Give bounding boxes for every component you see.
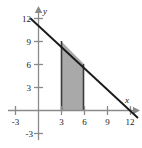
y-axis-label: y: [42, 6, 47, 16]
figure-container: -3 3 6 9 12 12 9 6 3 -3 x y: [0, 0, 142, 148]
x-tick-label-9: 9: [105, 117, 110, 127]
coordinate-plot: -3 3 6 9 12 12 9 6 3 -3 x y: [0, 0, 142, 148]
y-tick-label-6: 6: [27, 60, 32, 70]
shaded-region: [61, 41, 84, 110]
y-axis-arrow-icon: [35, 6, 42, 13]
x-tick-label-6: 6: [82, 117, 87, 127]
x-axis-label: x: [124, 95, 129, 105]
y-tick-label-3: 3: [27, 83, 32, 93]
x-tick-label-12: 12: [126, 117, 135, 127]
y-tick-label-9: 9: [27, 37, 32, 47]
y-tick-label-12: 12: [22, 14, 31, 24]
x-tick-label-3: 3: [59, 117, 64, 127]
y-tick-label--3: -3: [26, 129, 34, 139]
x-tick-label--3: -3: [12, 117, 20, 127]
